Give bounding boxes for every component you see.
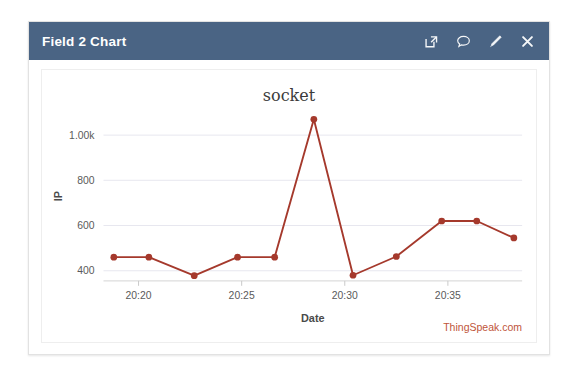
x-tick-label: 20:20 [126,290,152,301]
close-icon[interactable] [520,34,535,49]
thingspeak-watermark: ThingSpeak.com [443,321,522,333]
widget-header: Field 2 Chart [29,22,549,60]
y-tick-label: 400 [77,265,95,276]
y-tick-label: 600 [77,220,95,231]
data-point[interactable] [350,272,357,279]
x-axis-tick-labels: 20:2020:2520:3020:35 [126,290,462,301]
chart-widget-card: Field 2 Chart [28,21,550,355]
export-icon[interactable] [424,34,439,49]
data-point[interactable] [110,254,117,261]
data-point[interactable] [310,116,317,123]
comment-icon[interactable] [456,34,471,49]
data-point[interactable] [393,253,400,260]
series-line-socket [114,119,514,275]
data-point[interactable] [510,235,517,242]
y-axis-tick-labels: 4006008001.00k [69,130,95,277]
chart-plot-frame: socket 4006008001.00k 20:2020:2520:3020:… [41,69,537,343]
series-markers [110,116,517,279]
x-tick-label: 20:25 [229,290,255,301]
x-axis-title: Date [301,312,325,324]
y-axis-title: IP [52,191,64,201]
axis-lines [104,281,523,286]
data-point[interactable] [271,254,278,261]
line-chart: 4006008001.00k 20:2020:2520:3020:35 Date… [42,70,536,342]
header-actions [424,34,535,49]
edit-icon[interactable] [488,34,503,49]
x-tick-label: 20:30 [332,290,358,301]
gridlines [104,135,523,271]
data-point[interactable] [191,272,198,279]
data-point[interactable] [234,254,241,261]
widget-title: Field 2 Chart [42,34,126,49]
data-point[interactable] [438,218,445,225]
x-tick-label: 20:35 [435,290,461,301]
y-tick-label: 1.00k [69,130,95,141]
y-tick-label: 800 [77,175,95,186]
data-point[interactable] [145,254,152,261]
data-point[interactable] [473,218,480,225]
